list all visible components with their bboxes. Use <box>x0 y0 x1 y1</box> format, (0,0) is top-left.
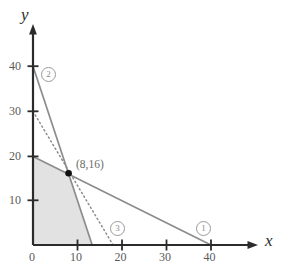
intersection-point-label: (8,16) <box>76 159 104 171</box>
x-tick-label-10: 10 <box>70 251 82 263</box>
y-axis-label: y <box>21 6 29 23</box>
x-tick-label-30: 30 <box>159 251 171 263</box>
series-tag-2: 2 <box>41 67 56 82</box>
x-axis-arrow-icon <box>248 241 259 249</box>
x-tick-label-40: 40 <box>204 251 216 263</box>
coordinate-plot <box>0 0 288 279</box>
y-tick-label-40: 40 <box>9 60 21 72</box>
y-tick-label-30: 30 <box>9 105 21 117</box>
series-tag-1: 1 <box>196 221 211 236</box>
y-tick-label-10: 10 <box>9 194 21 206</box>
x-tick-label-0: 0 <box>29 251 35 263</box>
x-tick-label-20: 20 <box>115 251 127 263</box>
y-axis-arrow-icon <box>29 24 37 35</box>
y-tick-label-20: 20 <box>9 150 21 162</box>
intersection-point-marker <box>65 170 72 177</box>
x-axis-label: x <box>265 232 273 249</box>
series-tag-3: 3 <box>110 221 125 236</box>
figure-canvas: y x 10 20 30 40 0 10 20 30 40 (8,16) 2 3… <box>0 0 288 279</box>
